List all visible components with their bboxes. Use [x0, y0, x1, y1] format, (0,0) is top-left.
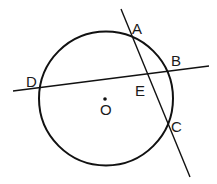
- label-d: D: [26, 73, 37, 90]
- label-e: E: [135, 82, 145, 99]
- geometry-diagram: A B D E O C: [0, 0, 217, 184]
- label-a: A: [132, 20, 142, 37]
- label-o: O: [100, 101, 112, 118]
- label-c: C: [171, 118, 182, 135]
- label-b: B: [171, 52, 181, 69]
